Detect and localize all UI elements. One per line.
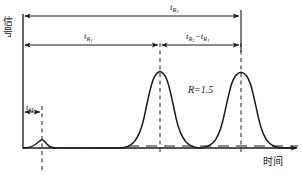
chromatogram-figure: tR2 tR1 tR2−tR1 tM R=1.5 信号 时间	[0, 0, 302, 175]
dimension-arrow-group	[25, 16, 239, 112]
x-axis-label: 时间	[263, 157, 283, 167]
label-resolution: R=1.5	[188, 85, 213, 95]
label-tm-sub: M	[29, 107, 34, 113]
chromatogram-plot	[0, 0, 302, 175]
label-delta-first-sub: R2	[189, 36, 195, 42]
label-dead-time: tM	[26, 103, 34, 112]
label-retention-time-2: tR2	[170, 3, 179, 12]
y-axis-label: 信号	[1, 16, 11, 38]
label-retention-time-difference: tR2−tR1	[186, 32, 209, 41]
label-retention-time-1: tR1	[84, 32, 93, 41]
label-tr2-sub: R2	[173, 7, 179, 13]
label-delta-second-sub: R1	[203, 36, 209, 42]
label-tr1-sub: R1	[87, 36, 93, 42]
retention-marker-group	[42, 43, 241, 170]
